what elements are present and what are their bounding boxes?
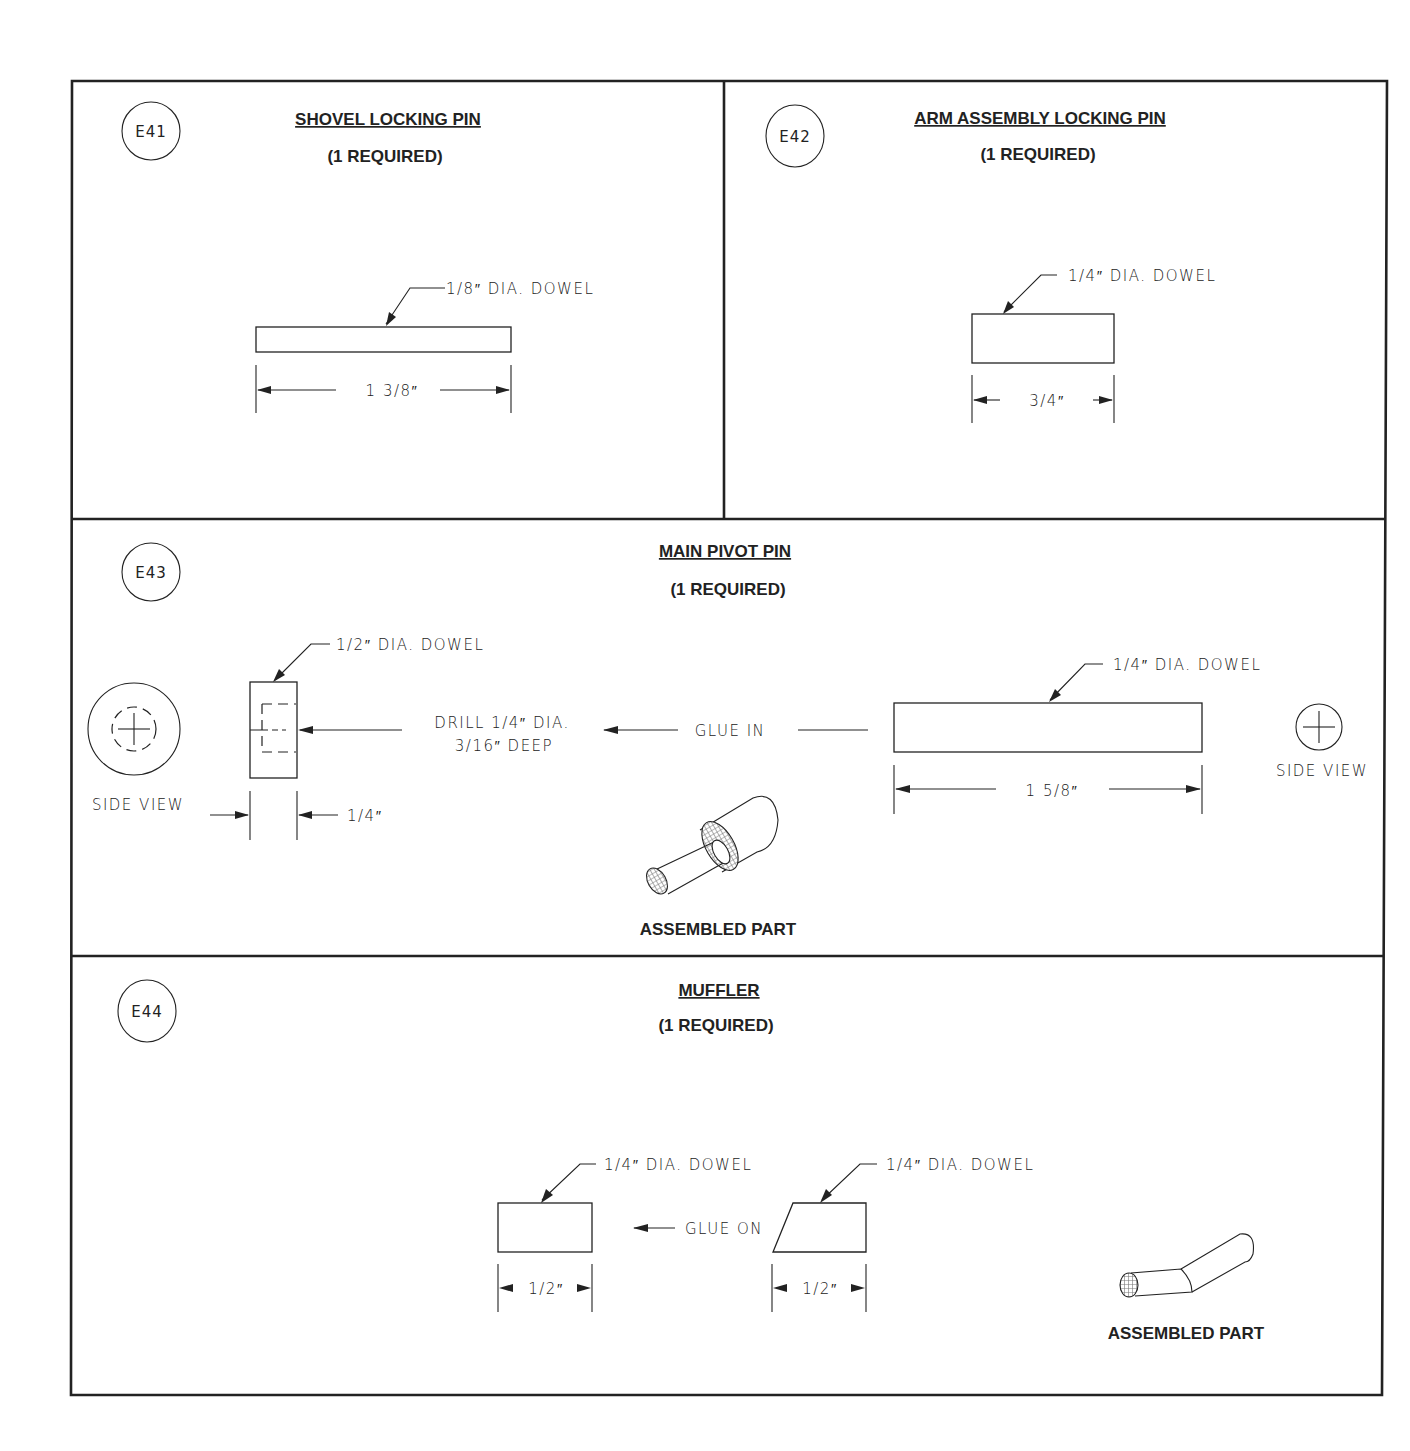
quantity-label: (1 REQUIRED) [670, 580, 785, 599]
dimension-label: 1 5/8″ [1026, 782, 1079, 800]
angled-dowel-part [773, 1203, 866, 1252]
callout-label: 1/4″ DIA. DOWEL [604, 1156, 752, 1174]
dowel-part [894, 703, 1202, 752]
leader-arrow-icon [541, 1164, 596, 1203]
assembled-part-icon [642, 796, 778, 897]
assembled-part-label: ASSEMBLED PART [640, 920, 797, 939]
dimension-label: 1/2″ [528, 1280, 563, 1298]
part-id: E44 [131, 1003, 163, 1021]
part-id: E43 [135, 564, 167, 582]
dimension-label: 1/2″ [802, 1280, 837, 1298]
assembled-part-label: ASSEMBLED PART [1108, 1324, 1265, 1343]
leader-arrow-icon [386, 288, 445, 326]
dowel-part [972, 314, 1114, 363]
part-id: E41 [135, 123, 167, 141]
callout-label: 1/2″ DIA. DOWEL [336, 636, 484, 654]
side-view-icon [1296, 704, 1342, 750]
panel-e42: E42 ARM ASSEMBLY LOCKING PIN (1 REQUIRED… [766, 105, 1216, 423]
drill-note-line1: DRILL 1/4″ DIA. [434, 714, 569, 732]
panel-e44: E44 MUFFLER (1 REQUIRED) 1/4″ DIA. DOWEL… [118, 980, 1265, 1343]
glue-note: GLUE ON [685, 1220, 763, 1238]
drill-arrow-icon [298, 726, 402, 734]
callout-label: 1/8″ DIA. DOWEL [446, 280, 594, 298]
dowel-part [256, 327, 511, 352]
leader-arrow-icon [273, 644, 330, 682]
glue-note: GLUE IN [695, 722, 766, 740]
part-id: E42 [779, 128, 811, 146]
quantity-label: (1 REQUIRED) [980, 145, 1095, 164]
quantity-label: (1 REQUIRED) [658, 1016, 773, 1035]
dimension-label: 1 3/8″ [366, 382, 419, 400]
panel-title: SHOVEL LOCKING PIN [295, 110, 481, 129]
panel-e41: E41 SHOVEL LOCKING PIN (1 REQUIRED) 1/8″… [122, 102, 594, 413]
leader-arrow-icon [820, 1164, 877, 1203]
hidden-hole-lines [250, 704, 296, 752]
dimension-label: 3/4″ [1029, 392, 1064, 410]
drill-note-line2: 3/16″ DEEP [455, 737, 553, 755]
callout-label: 1/4″ DIA. DOWEL [1113, 656, 1261, 674]
glue-arrow-icon [633, 1224, 675, 1232]
leader-arrow-icon [1003, 275, 1057, 314]
panel-title: ARM ASSEMBLY LOCKING PIN [914, 109, 1166, 128]
side-view-label: SIDE VIEW [92, 796, 184, 814]
assembled-part-icon [1120, 1234, 1253, 1297]
side-view-icon [88, 683, 180, 775]
dowel-part [498, 1203, 592, 1252]
callout-label: 1/4″ DIA. DOWEL [886, 1156, 1034, 1174]
dimension-label: 1/4″ [347, 807, 382, 825]
side-view-label: SIDE VIEW [1276, 762, 1368, 780]
panel-e43: E43 MAIN PIVOT PIN (1 REQUIRED) SIDE VIE… [88, 542, 1368, 939]
leader-arrow-icon [1049, 664, 1103, 702]
callout-label: 1/4″ DIA. DOWEL [1068, 267, 1216, 285]
panel-title: MUFFLER [678, 981, 759, 1000]
drawing-sheet: E41 SHOVEL LOCKING PIN (1 REQUIRED) 1/8″… [0, 0, 1410, 1451]
quantity-label: (1 REQUIRED) [327, 147, 442, 166]
dimension-line [210, 791, 338, 840]
panel-title: MAIN PIVOT PIN [659, 542, 791, 561]
